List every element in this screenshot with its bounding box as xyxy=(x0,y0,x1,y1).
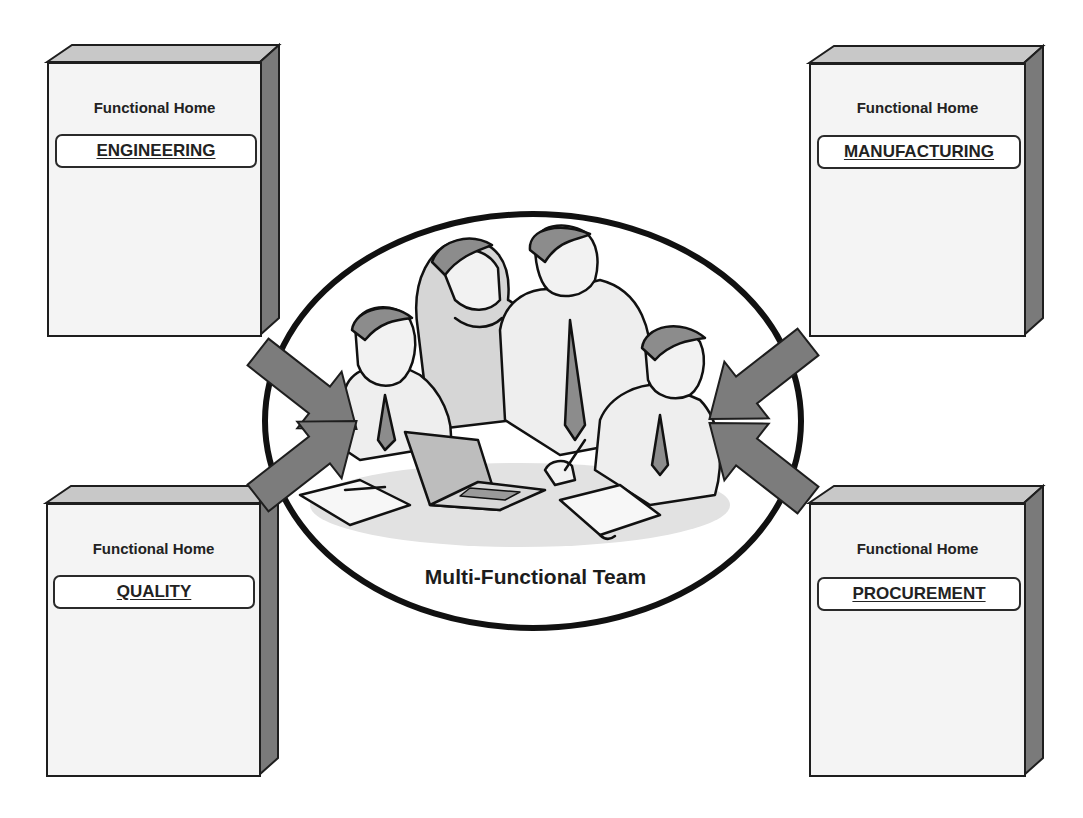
team-label: Multi-Functional Team xyxy=(425,565,646,589)
diagram-canvas: Functional Home ENGINEERING Functional H… xyxy=(0,0,1083,818)
team-graphics xyxy=(0,0,1083,818)
team-label-container: Multi-Functional Team xyxy=(0,565,1083,589)
